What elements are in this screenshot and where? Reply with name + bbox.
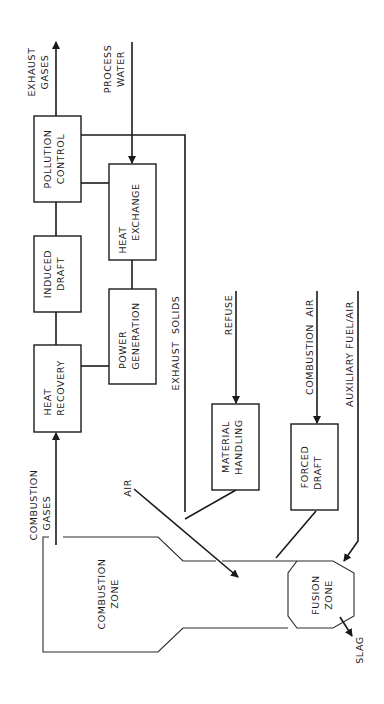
svg-text:COMBUSTION: COMBUSTION xyxy=(96,559,107,630)
svg-text:EXCHANGE: EXCHANGE xyxy=(130,183,141,240)
svg-text:SLAG: SLAG xyxy=(354,636,365,664)
fusion-zone-label: FUSION ZONE xyxy=(310,575,334,614)
combustion-chamber-outline-upper-left xyxy=(63,537,216,561)
svg-text:HEAT: HEAT xyxy=(42,388,53,415)
svg-text:CONTROL: CONTROL xyxy=(55,134,66,185)
process-water-label: PROCESS WATER xyxy=(102,45,126,94)
svg-text:PROCESS: PROCESS xyxy=(102,45,113,94)
svg-text:POWER: POWER xyxy=(117,331,128,369)
combustion-gases-label: COMBUSTION GASES xyxy=(28,470,52,541)
svg-text:EXHAUST: EXHAUST xyxy=(26,47,37,96)
svg-text:RECOVERY: RECOVERY xyxy=(55,360,66,416)
svg-text:POLLUTION: POLLUTION xyxy=(42,130,53,189)
svg-text:ZONE: ZONE xyxy=(323,580,334,610)
forced-draft-feed-line xyxy=(276,511,316,558)
air-label: AIR xyxy=(122,479,133,497)
process-flow-diagram: POLLUTION CONTROL HEAT EXCHANGE INDUCED … xyxy=(0,0,384,704)
svg-text:FUSION: FUSION xyxy=(310,575,321,614)
svg-text:WATER: WATER xyxy=(115,51,126,87)
material-handling-feed-line xyxy=(185,490,236,519)
combustion-zone-label: COMBUSTION ZONE xyxy=(96,559,120,630)
exhaust-gases-label: EXHAUST GASES xyxy=(26,47,50,96)
svg-text:COMBUSTION: COMBUSTION xyxy=(28,470,39,541)
svg-text:FORCED: FORCED xyxy=(299,446,310,489)
svg-text:GASES: GASES xyxy=(39,55,50,90)
svg-text:INDUCED: INDUCED xyxy=(42,250,53,298)
svg-text:EXHAUST SOLIDS: EXHAUST SOLIDS xyxy=(170,296,181,391)
refuse-label: REFUSE xyxy=(223,295,234,336)
svg-text:HEAT: HEAT xyxy=(117,226,128,253)
auxiliary-fuel-air-label: AUXILIARY FUEL/AIR xyxy=(344,301,355,407)
svg-text:GENERATION: GENERATION xyxy=(130,302,141,370)
air-arrow xyxy=(134,489,238,577)
combustion-air-label: COMBUSTION AIR xyxy=(304,299,315,395)
svg-text:AIR: AIR xyxy=(122,479,133,497)
exhaust-solids-label: EXHAUST SOLIDS xyxy=(170,296,181,391)
svg-text:REFUSE: REFUSE xyxy=(223,295,234,336)
svg-text:ZONE: ZONE xyxy=(109,579,120,609)
svg-text:COMBUSTION AIR: COMBUSTION AIR xyxy=(304,299,315,395)
slag-label: SLAG xyxy=(354,636,365,664)
svg-text:DRAFT: DRAFT xyxy=(55,257,66,291)
svg-text:GASES: GASES xyxy=(41,496,52,531)
svg-text:MATERIAL: MATERIAL xyxy=(220,421,231,473)
svg-text:AUXILIARY FUEL/AIR: AUXILIARY FUEL/AIR xyxy=(344,301,355,407)
combustion-chamber-outline-lower xyxy=(43,537,288,652)
slag-arrow xyxy=(340,617,352,636)
svg-text:DRAFT: DRAFT xyxy=(312,456,323,490)
svg-text:HANDLING: HANDLING xyxy=(233,419,244,474)
fusion-zone-outline xyxy=(288,561,354,628)
